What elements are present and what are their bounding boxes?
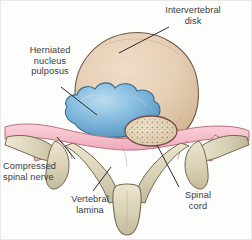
label-intervertebral-disk: Intervertebral disk <box>141 5 245 26</box>
label-herniated-nucleus-pulposus: Herniated nucleus pulposus <box>7 45 93 77</box>
spinal-cord <box>125 116 177 146</box>
label-vertebral-lamina: Vertebral lamina <box>49 194 131 215</box>
anatomical-illustration: Intervertebral disk Herniated nucleus pu… <box>0 0 252 240</box>
label-compressed-spinal-nerve: Compressed spinal nerve <box>3 161 89 182</box>
label-spinal-cord: Spinal cord <box>167 190 229 211</box>
